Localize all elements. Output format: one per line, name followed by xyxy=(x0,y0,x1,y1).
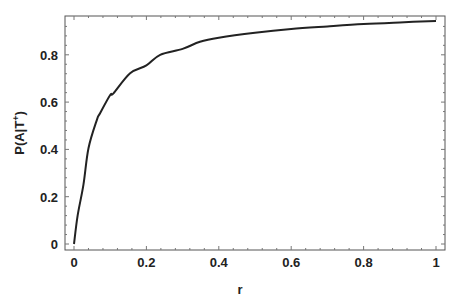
y-axis-label: P(A|T+) xyxy=(11,111,27,155)
y-tick-label: 0.6 xyxy=(40,95,58,110)
x-tick-label: 1 xyxy=(432,255,439,270)
plot-frame xyxy=(65,16,445,250)
line-chart: 00.20.40.60.81 00.20.40.60.8 r P(A|T+) xyxy=(0,0,463,307)
x-tick-label: 0.6 xyxy=(282,255,300,270)
y-tick-labels: 00.20.40.60.8 xyxy=(40,48,59,252)
x-tick-label: 0.4 xyxy=(210,255,229,270)
x-tick-label: 0.8 xyxy=(355,255,373,270)
y-tick-label: 0 xyxy=(51,237,58,252)
y-tick-label: 0.4 xyxy=(40,142,59,157)
y-tick-label: 0.2 xyxy=(40,190,58,205)
axis-ticks xyxy=(65,16,445,250)
x-axis-label: r xyxy=(237,282,242,297)
x-tick-labels: 00.20.40.60.81 xyxy=(70,255,439,270)
y-tick-label: 0.8 xyxy=(40,48,58,63)
x-tick-label: 0 xyxy=(70,255,77,270)
x-tick-label: 0.2 xyxy=(137,255,155,270)
data-line xyxy=(74,21,436,244)
